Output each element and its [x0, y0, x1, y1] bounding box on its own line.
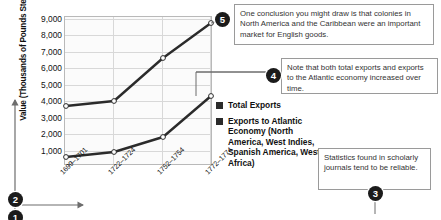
figure-root: Value (Thousands of Pounds Sterling) 9,0… — [0, 0, 441, 220]
callout-badge-2: 2 — [8, 192, 23, 207]
callout-box-4: Note that both total exports and exports… — [281, 58, 438, 94]
callout-badge-1: 1 — [8, 210, 23, 220]
callout-badge-5: 5 — [215, 12, 230, 27]
callout-badge-4: 4 — [266, 68, 281, 83]
callout-badge-3: 3 — [368, 186, 383, 201]
callout-box-5: One conclusion you might draw is that co… — [234, 4, 434, 45]
callout-box-3: Statistics found in scholarly journals t… — [318, 148, 431, 190]
